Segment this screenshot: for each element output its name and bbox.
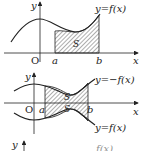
origin-label: O: [25, 104, 33, 115]
b-label: b: [87, 104, 93, 115]
region-label: S: [73, 39, 79, 49]
y-axis-label: y: [24, 71, 31, 82]
origin-label: O: [31, 55, 39, 66]
partial-curve-label: f(x): [95, 143, 113, 151]
curve-label: y=f(x): [94, 3, 126, 14]
x-axis-label: x: [133, 55, 139, 66]
lower-curve-label: y=f(x): [94, 122, 126, 133]
a-label: a: [52, 55, 58, 66]
figure-2: y x O a b y=−f(x) y=f(x) S S: [4, 71, 139, 134]
x-axis-label: x: [133, 106, 139, 117]
upper-curve-label: y=−f(x): [94, 74, 135, 85]
shaded-region-between-curves: [45, 83, 88, 121]
region-label-upper: S: [64, 92, 70, 102]
y-axis-label: y: [30, 0, 37, 11]
a-label: a: [39, 104, 45, 115]
region-label-lower: S: [64, 104, 70, 114]
figure-3-partial: y f(x): [11, 139, 113, 151]
y-axis-label: y: [11, 139, 18, 150]
integral-area-diagrams: y x O a b y=f(x) S y x O a b y=−f(x) y=f…: [0, 0, 143, 151]
figure-1: y x O a b y=f(x) S: [4, 0, 139, 66]
b-label: b: [96, 55, 102, 66]
